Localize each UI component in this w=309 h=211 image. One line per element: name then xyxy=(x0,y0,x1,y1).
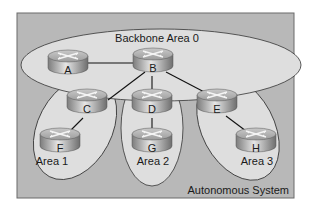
area-1-label: Area 1 xyxy=(36,155,68,167)
router-g-label: G xyxy=(148,142,157,154)
router-h-label: H xyxy=(252,142,260,154)
area-2-label: Area 2 xyxy=(137,155,169,167)
autonomous-system-label: Autonomous System xyxy=(188,184,290,196)
backbone-area-0-label: Backbone Area 0 xyxy=(115,32,199,44)
area-3-label: Area 3 xyxy=(241,155,273,167)
router-a-label: A xyxy=(64,64,72,76)
router-d-label: D xyxy=(148,103,156,115)
router-b-label: B xyxy=(149,62,156,74)
ospf-diagram: A B C D E F G H Backbone Area 0 Area 1 A… xyxy=(0,0,309,211)
router-e-label: E xyxy=(213,103,220,115)
router-f-label: F xyxy=(57,142,64,154)
router-c-label: C xyxy=(83,103,91,115)
